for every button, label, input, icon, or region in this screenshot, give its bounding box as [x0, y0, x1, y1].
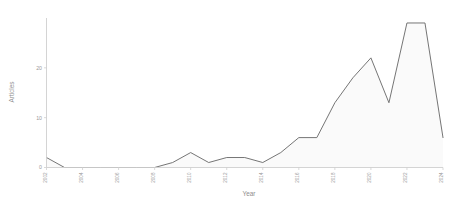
x-tick-label: 2008 [151, 172, 156, 183]
x-tick-label: 2006 [115, 172, 120, 183]
x-tick-label: 2010 [187, 172, 192, 183]
x-tick-label: 2012 [223, 172, 228, 183]
x-tick-label: 2014 [259, 172, 264, 183]
x-tick-label: 2016 [295, 172, 300, 183]
x-axis: 2002200420062008201020122014201620182020… [43, 168, 445, 198]
x-tick-label: 2022 [403, 172, 408, 183]
articles-by-year-chart: 01020 Articles 2002200420062008201020122… [0, 0, 453, 202]
x-tick-label: 2020 [367, 172, 372, 183]
x-tick-label: 2002 [43, 172, 48, 183]
x-tick-group: 2002200420062008201020122014201620182020… [43, 168, 445, 183]
chart-canvas: 01020 Articles 2002200420062008201020122… [0, 0, 453, 202]
y-tick-group: 01020 [36, 65, 46, 171]
y-tick-label: 20 [36, 65, 42, 71]
x-tick-label: 2018 [331, 172, 336, 183]
y-tick-label: 0 [39, 164, 42, 170]
series-area-articles [47, 23, 444, 168]
plot-area [47, 23, 444, 168]
x-tick-label: 2024 [439, 172, 444, 183]
y-axis-title: Articles [8, 82, 15, 103]
x-axis-title: Year [243, 190, 257, 197]
y-axis: 01020 Articles [8, 18, 47, 170]
x-tick-label: 2004 [79, 172, 84, 183]
y-tick-label: 10 [36, 115, 42, 121]
